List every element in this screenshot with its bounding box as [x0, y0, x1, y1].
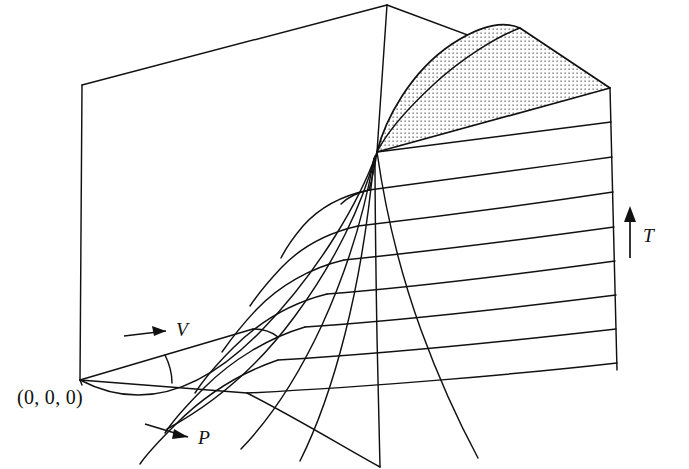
origin-coordinate-label: (0, 0, 0) [17, 386, 83, 409]
axis-label-v: V [176, 319, 190, 340]
axis-label-p: P [197, 427, 210, 448]
pvt-surface-figure: V P T (0, 0, 0) [0, 0, 689, 469]
axis-label-t: T [643, 225, 655, 246]
pvt-diagram-canvas: V P T (0, 0, 0) [0, 0, 689, 469]
